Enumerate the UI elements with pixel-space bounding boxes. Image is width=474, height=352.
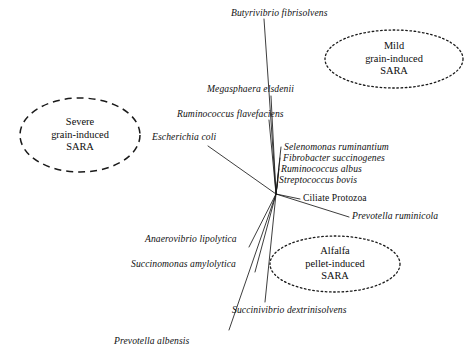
species-label-prevotella-albensis: Prevotella albensis <box>114 336 189 346</box>
group-label-line: SARA <box>51 141 109 154</box>
group-label-alfalfa-pellet-induced-sara: Alfalfapellet-inducedSARA <box>305 245 364 283</box>
species-label-prevotella-ruminicola: Prevotella ruminicola <box>352 211 438 221</box>
species-label-ruminococcus-albus: Ruminococcus albus <box>281 164 362 174</box>
group-label-line: SARA <box>305 270 364 283</box>
vector-escherichia-coli <box>208 146 276 194</box>
species-label-anaerovibrio-lipolytica: Anaerovibrio lipolytica <box>145 234 237 244</box>
species-label-selenomonas-ruminantium: Selenomonas ruminantium <box>284 142 389 152</box>
group-label-mild-grain-induced-sara: Mildgrain-inducedSARA <box>365 40 423 78</box>
species-label-ciliate-protozoa: Ciliate Protozoa <box>303 193 367 203</box>
group-label-line: grain-induced <box>365 53 423 66</box>
group-label-line: SARA <box>365 65 423 78</box>
group-label-severe-grain-induced-sara: Severegrain-inducedSARA <box>51 116 109 154</box>
group-label-line: Mild <box>365 40 423 53</box>
vector-butyrivibrio-fibrisolvens <box>264 19 276 194</box>
species-label-succinomonas-amylolytica: Succinomonas amylolytica <box>131 259 236 269</box>
biplot-figure: Butyrivibrio fibrisolvensMegasphaera els… <box>0 0 474 352</box>
group-label-line: grain-induced <box>51 129 109 142</box>
species-label-megasphaera-elsdenii: Megasphaera elsdenii <box>207 84 294 94</box>
group-label-line: pellet-induced <box>305 258 364 271</box>
group-label-line: Alfalfa <box>305 245 364 258</box>
species-label-succinivibrio-dextrinisolvens: Succinivibrio dextrinisolvens <box>232 305 347 315</box>
vector-anaerovibrio-lipolytica <box>249 194 276 247</box>
species-label-fibrobacter-succinogenes: Fibrobacter succinogenes <box>283 153 385 163</box>
group-label-line: Severe <box>51 116 109 129</box>
species-label-ruminococcus-flavefaciens: Ruminococcus flavefaciens <box>177 109 284 119</box>
vector-succinomonas-amylolytica <box>255 194 276 272</box>
species-label-streptococcus-bovis: Streptococcus bovis <box>279 175 357 185</box>
species-label-butyrivibrio-fibrisolvens: Butyrivibrio fibrisolvens <box>231 8 328 18</box>
species-label-escherichia-coli: Escherichia coli <box>152 132 216 142</box>
